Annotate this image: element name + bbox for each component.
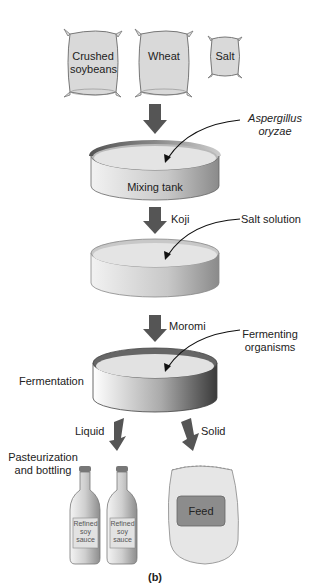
fermentation-tank — [93, 348, 217, 412]
bottle-label-line: Refined — [73, 520, 98, 528]
tank-name-mixing: Mixing tank — [110, 181, 200, 194]
annotation-line: Aspergillus — [240, 112, 310, 125]
annotation-line: oryzae — [240, 125, 310, 138]
ingredient-label-salt: Salt — [212, 50, 238, 63]
diagram-graphics — [0, 0, 316, 586]
bottle-label-line: sauce — [73, 536, 98, 544]
flow-label-liquid: Liquid — [75, 425, 104, 438]
bottle-label-line: Refined — [110, 520, 135, 528]
annotation-line: Fermenting — [240, 328, 300, 341]
arrow-down-icon — [143, 315, 167, 342]
arrow-down-icon — [143, 207, 167, 234]
annotation-aspergillus: Aspergillus oryzae — [240, 112, 310, 138]
step-line: and bottling — [8, 464, 78, 477]
ingredient-line: Crushed — [70, 50, 116, 63]
bottle-label-line: sauce — [110, 536, 135, 544]
bottle-label-line: soy — [110, 528, 135, 536]
side-label-fermentation: Fermentation — [19, 375, 84, 388]
bottle-label: Refined soy sauce — [73, 520, 98, 544]
salt-solution-tank — [91, 239, 219, 297]
flow-label-solid: Solid — [201, 425, 225, 438]
bottle-1 — [70, 466, 100, 564]
annotation-salt-solution: Salt solution — [241, 213, 301, 226]
ingredient-label-soybeans: Crushed soybeans — [70, 50, 116, 76]
bag-wheat — [135, 29, 193, 97]
arrow-liquid-icon — [109, 418, 126, 451]
annotation-fermenting-organisms: Fermenting organisms — [240, 328, 300, 354]
step-label-pasteurization: Pasteurization and bottling — [8, 451, 78, 477]
bottle-label: Refined soy sauce — [110, 520, 135, 544]
feed-label: Feed — [177, 505, 225, 518]
figure-caption: (b) — [130, 571, 180, 584]
annotation-line: organisms — [240, 341, 300, 354]
arrow-down-icon — [143, 104, 167, 134]
bottle-label-line: soy — [73, 528, 98, 536]
flow-label-moromi: Moromi — [169, 320, 206, 333]
flow-label-koji: Koji — [171, 213, 189, 226]
bottle-2 — [107, 466, 137, 564]
ingredient-label-wheat: Wheat — [141, 50, 187, 63]
ingredient-line: soybeans — [70, 63, 116, 76]
step-line: Pasteurization — [8, 451, 78, 464]
arrow-solid-icon — [181, 418, 199, 451]
